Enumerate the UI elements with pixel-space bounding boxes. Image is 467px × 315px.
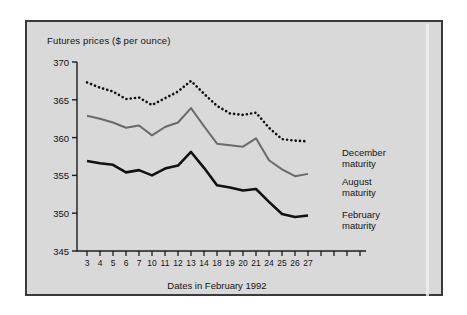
legend-item-december: December maturity: [342, 148, 386, 169]
legend-label-august-line1: August: [342, 177, 376, 188]
y-tick-360: 360: [43, 132, 69, 143]
figure-panel: Futures prices ($ per ounce) 34535035536…: [25, 20, 443, 296]
y-tick-350: 350: [43, 208, 69, 219]
y-tick-370: 370: [43, 57, 69, 68]
y-tick-345: 345: [43, 246, 69, 257]
legend-label-february-line2: maturity: [342, 221, 380, 232]
legend-label-february-line1: February: [342, 210, 380, 221]
series-line-august: [87, 108, 308, 176]
series-line-february: [87, 152, 308, 217]
legend-label-august-line2: maturity: [342, 188, 376, 199]
y-tick-355: 355: [43, 170, 69, 181]
series-line-december: [87, 81, 308, 141]
x-tick-27: 27: [299, 258, 317, 268]
legend-item-august: August maturity: [342, 177, 376, 198]
legend-item-february: February maturity: [342, 210, 380, 231]
x-axis-title: Dates in February 1992: [67, 280, 367, 291]
y-tick-365: 365: [43, 94, 69, 105]
legend-label-december-line1: December: [342, 148, 386, 159]
legend-label-december-line2: maturity: [342, 159, 386, 170]
